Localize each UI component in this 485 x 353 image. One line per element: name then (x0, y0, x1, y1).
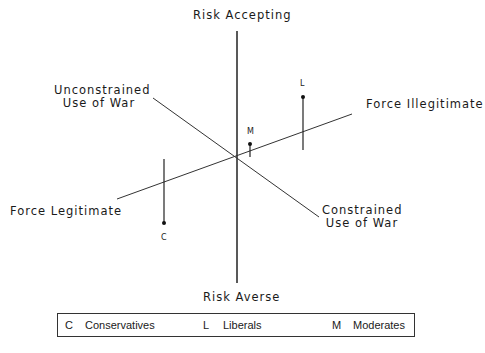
point-label-conservatives: C (161, 233, 167, 242)
legend-label-moderates: Moderates (353, 319, 405, 331)
legend-code-l: L (203, 319, 209, 331)
label-risk-averse: Risk Averse (203, 291, 280, 304)
label-constrained: Constrained Use of War (322, 204, 402, 230)
label-force-legitimate: Force Legitimate (10, 205, 122, 218)
point-label-liberals: L (300, 79, 304, 88)
force-axis (117, 114, 352, 199)
moderates-dot (248, 142, 252, 146)
label-unconstrained: Unconstrained Use of War (54, 84, 144, 110)
conservatives-dot (162, 221, 166, 225)
label-force-illegitimate: Force Illegitimate (366, 98, 484, 111)
legend-label-liberals: Liberals (223, 319, 262, 331)
label-risk-accepting: Risk Accepting (193, 9, 291, 22)
legend-code-c: C (65, 319, 73, 331)
liberals-dot (301, 95, 305, 99)
legend-code-m: M (332, 319, 341, 331)
point-label-moderates: M (247, 127, 254, 136)
legend-box: C Conservatives L Liberals M Moderates (57, 313, 415, 337)
war-use-axis (153, 98, 319, 217)
legend-label-conservatives: Conservatives (85, 319, 155, 331)
